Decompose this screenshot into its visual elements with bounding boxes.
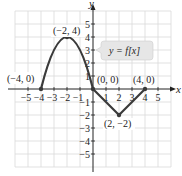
label-m2-4: (−2, 4): [53, 25, 80, 37]
legend: y = f[x]: [96, 41, 153, 60]
x-tick-label: −3: [47, 92, 58, 103]
y-tick-label: 4: [85, 32, 90, 43]
y-tick-label: −5: [79, 149, 90, 160]
y-tick-label: 3: [85, 45, 90, 56]
x-tick-label: −2: [60, 92, 71, 103]
point-0-0: [91, 87, 95, 91]
y-tick-label: 5: [85, 19, 90, 30]
label-m4-0: (−4, 0): [7, 73, 34, 85]
legend-label: y = f[x]: [108, 45, 140, 56]
y-tick-label: −4: [79, 136, 90, 147]
x-tick-label: 5: [156, 92, 161, 103]
function-graph: x y −5 −4 −3 −2 −1 1 2 3 4 5 5 4 3 2 1 −…: [0, 0, 182, 176]
label-4-0: (4, 0): [133, 74, 155, 86]
label-0-0: (0, 0): [97, 74, 119, 86]
x-tick-label: −5: [21, 92, 32, 103]
x-axis-label: x: [175, 83, 181, 95]
x-tick-label: −4: [34, 92, 45, 103]
y-tick-label: −1: [79, 97, 90, 108]
label-2-m2: (2, −2): [104, 118, 131, 130]
y-tick-label: −2: [79, 110, 90, 121]
point-2-m2: [117, 113, 121, 117]
x-tick-label: 4: [143, 92, 148, 103]
point-4-0: [143, 87, 147, 91]
y-tick-label: −3: [79, 123, 90, 134]
x-tick-label: 2: [117, 92, 122, 103]
y-axis-label: y: [88, 0, 94, 9]
point-m4-0: [39, 87, 43, 91]
